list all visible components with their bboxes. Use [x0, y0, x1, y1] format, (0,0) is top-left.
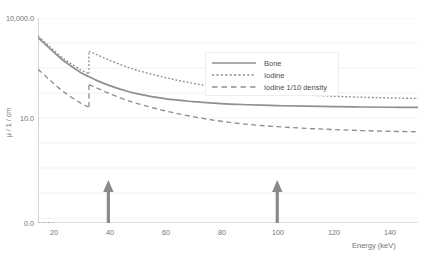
x-axis-title: Energy (keV) — [352, 241, 396, 250]
arrow-40kev — [103, 180, 113, 223]
x-tick-label-20: 20 — [43, 228, 65, 237]
legend-swatch-iodine — [212, 71, 256, 79]
x-tick-label-60: 60 — [155, 228, 177, 237]
legend-item-bone: Bone — [212, 57, 332, 69]
legend-label-iodine-tenth: Iodine 1/10 density — [264, 83, 327, 92]
chart-legend: Bone Iodine Iodine 1/10 density — [205, 52, 339, 96]
legend-item-iodine-tenth: Iodine 1/10 density — [212, 81, 332, 93]
y-tick-label-10000: 10,000.0 — [0, 14, 34, 23]
legend-label-bone: Bone — [264, 59, 282, 68]
x-tick-label-100: 100 — [267, 228, 289, 237]
y-tick-label-0: 0.0 — [0, 219, 34, 228]
legend-swatch-bone — [212, 59, 256, 67]
chart-canvas — [38, 18, 418, 223]
x-tick-label-40: 40 — [99, 228, 121, 237]
legend-swatch-iodine-tenth — [212, 83, 256, 91]
x-tick-label-140: 140 — [379, 228, 401, 237]
arrow-100kev — [272, 180, 282, 223]
x-tick-label-120: 120 — [323, 228, 345, 237]
x-tick-label-80: 80 — [211, 228, 233, 237]
plot-area — [38, 18, 418, 223]
legend-item-iodine: Iodine — [212, 69, 332, 81]
chart-figure: µ / 1 / cm 10,000.0 10.0 0.0 20 40 60 80… — [0, 0, 434, 260]
y-tick-label-10: 10.0 — [0, 114, 34, 123]
legend-label-iodine: Iodine — [264, 71, 284, 80]
